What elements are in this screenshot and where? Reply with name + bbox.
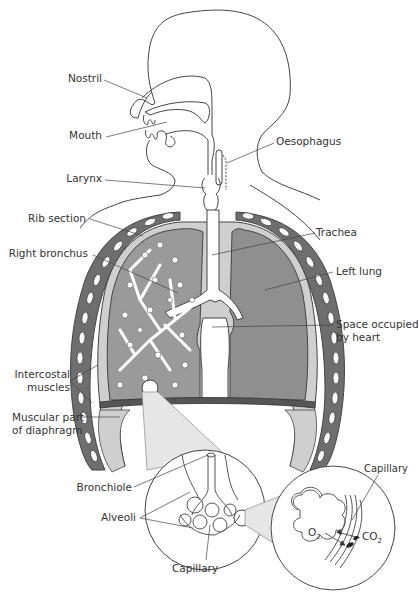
- label-space-heart-line1: Space occupied: [336, 318, 419, 331]
- label-intercostal-line2: muscles: [0, 381, 70, 394]
- label-trachea: Trachea: [316, 226, 357, 239]
- label-diaphragm-line1: Muscular part: [12, 411, 84, 424]
- heart-space: [201, 318, 230, 400]
- label-rib-section: Rib section: [10, 212, 86, 225]
- label-larynx: Larynx: [52, 172, 102, 185]
- label-oxygen: O2: [308, 526, 321, 541]
- label-oesophagus: Oesophagus: [276, 135, 341, 148]
- head-outline: [148, 10, 320, 200]
- label-capillary-inset: Capillary: [172, 562, 218, 575]
- diaphragm: [100, 398, 315, 409]
- label-alveoli: Alveoli: [80, 511, 136, 524]
- label-capillary-detail: Capillary: [364, 462, 408, 475]
- label-intercostal-line1: Intercostal: [0, 368, 70, 381]
- label-space-heart-line2: by heart: [336, 331, 380, 344]
- gas-exchange-inset-circle: [271, 466, 395, 590]
- label-nostril: Nostril: [52, 72, 102, 85]
- label-left-lung: Left lung: [336, 265, 382, 278]
- label-bronchiole: Bronchiole: [60, 481, 132, 494]
- label-right-bronchus: Right bronchus: [0, 247, 88, 260]
- label-carbon-dioxide: CO2: [362, 530, 382, 545]
- label-diaphragm-line2: of diaphragm: [12, 424, 82, 437]
- label-mouth: Mouth: [52, 129, 102, 142]
